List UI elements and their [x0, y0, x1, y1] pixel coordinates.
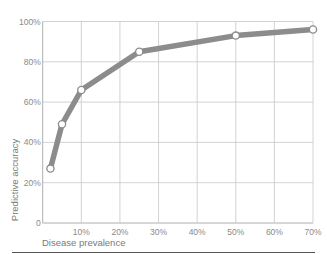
x-tick-label: 70% — [304, 227, 321, 237]
data-point-marker — [78, 86, 85, 93]
y-tick-label: 60% — [24, 97, 41, 107]
bottom-rule — [12, 252, 315, 253]
y-tick-label: 0 — [36, 218, 41, 228]
x-tick-label: 10% — [73, 227, 90, 237]
x-tick-label: 20% — [111, 227, 128, 237]
y-tick-label: 40% — [24, 137, 41, 147]
y-tick-label: 80% — [24, 57, 41, 67]
y-axis-title: Predictive accuracy — [9, 139, 20, 222]
data-point-marker — [232, 32, 239, 39]
x-tick-label: 60% — [266, 227, 283, 237]
data-point-marker — [136, 48, 143, 55]
data-point-marker — [47, 165, 54, 172]
series-line — [50, 30, 313, 169]
y-tick-label: 100% — [19, 17, 41, 27]
data-series — [47, 26, 317, 172]
x-tick-label: 30% — [150, 227, 167, 237]
data-point-marker — [309, 26, 316, 33]
data-point-marker — [58, 121, 65, 128]
x-axis-title: Disease prevalence — [42, 237, 125, 248]
gridlines — [43, 22, 313, 224]
line-chart: 10%20%30%40%50%60%70% 020%40%60%80%100% … — [0, 0, 327, 254]
x-tick-label: 40% — [189, 227, 206, 237]
x-axis-ticks: 10%20%30%40%50%60%70% — [73, 227, 322, 237]
y-axis-ticks: 020%40%60%80%100% — [19, 17, 41, 229]
y-tick-label: 20% — [24, 178, 41, 188]
x-tick-label: 50% — [227, 227, 244, 237]
